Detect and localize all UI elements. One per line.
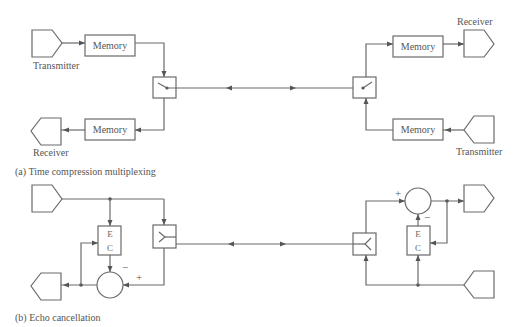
arrow-up-icon xyxy=(416,214,421,220)
left-memory-bottom-label: Memory xyxy=(93,124,127,135)
arrow-up-icon xyxy=(364,98,369,104)
arrow-right-icon xyxy=(92,241,98,246)
left-transmitter-pentagon-icon xyxy=(32,185,62,212)
right-memory-bottom: Memory xyxy=(393,119,443,140)
receiver-pentagon-icon xyxy=(464,30,494,57)
arrow-left-icon xyxy=(445,128,451,133)
ec-letter-e: E xyxy=(415,229,421,239)
arrow-right-icon xyxy=(399,199,405,204)
right-receiver: Receiver xyxy=(457,16,494,57)
arrow-right-icon xyxy=(387,42,393,47)
plus-sign: + xyxy=(395,187,401,199)
left-receiver-pentagon-icon xyxy=(31,273,61,300)
left-memory-top: Memory xyxy=(85,35,135,56)
right-switch xyxy=(353,77,376,98)
left-summing-junction xyxy=(97,272,123,298)
arrow-right-icon xyxy=(290,86,296,91)
arrow-down-icon xyxy=(162,219,167,225)
panel-a-time-compression: Transmitter Memory Memory Receiver xyxy=(15,16,503,178)
arrow-left-icon xyxy=(228,242,234,247)
right-memory-top: Memory xyxy=(393,36,443,57)
panel-b-echo-cancellation: E C − + xyxy=(15,185,494,324)
right-memory-top-label: Memory xyxy=(401,41,435,52)
plus-sign: + xyxy=(136,271,142,283)
arrow-left-icon xyxy=(63,283,69,288)
arrow-left-icon xyxy=(135,128,141,133)
left-echo-canceller: E C xyxy=(98,226,121,255)
caption-b: (b) Echo cancellation xyxy=(15,312,101,324)
arrow-left-icon xyxy=(226,86,232,91)
right-transmitter: Transmitter xyxy=(456,116,503,157)
ec-letter-e: E xyxy=(107,229,113,239)
left-receiver: Receiver xyxy=(31,118,69,158)
transmitter-pentagon-icon xyxy=(32,30,62,57)
minus-sign: − xyxy=(122,261,128,273)
left-memory-bottom: Memory xyxy=(85,119,135,140)
arrow-right-icon xyxy=(280,242,286,247)
arrow-up-icon xyxy=(364,255,369,261)
receiver-pentagon-icon xyxy=(31,118,61,145)
arrow-left-icon xyxy=(123,283,129,288)
arrow-left-icon xyxy=(430,241,436,246)
minus-sign: − xyxy=(424,211,430,223)
left-transmitter-label: Transmitter xyxy=(33,60,80,71)
right-transmitter-pentagon-icon xyxy=(464,271,494,298)
ec-letter-c: C xyxy=(107,243,113,253)
arrow-down-icon xyxy=(108,266,113,272)
ec-letter-c: C xyxy=(415,243,421,253)
arrow-down-icon xyxy=(108,220,113,226)
right-echo-canceller: E C xyxy=(407,226,430,255)
left-memory-top-label: Memory xyxy=(93,40,127,51)
arrow-right-icon xyxy=(79,41,85,46)
arrow-down-icon xyxy=(162,71,167,77)
right-receiver-pentagon-icon xyxy=(464,185,494,212)
left-hybrid xyxy=(153,225,176,248)
left-receiver-label: Receiver xyxy=(33,147,69,158)
arrow-right-icon xyxy=(458,199,464,204)
caption-a: (a) Time compression multiplexing xyxy=(15,166,156,178)
right-transmitter-label: Transmitter xyxy=(456,146,503,157)
left-transmitter: Transmitter xyxy=(32,30,80,71)
arrow-up-icon xyxy=(416,255,421,261)
arrow-left-icon xyxy=(63,128,69,133)
diagram-canvas: Transmitter Memory Memory Receiver xyxy=(0,0,521,327)
right-receiver-label: Receiver xyxy=(457,16,493,27)
right-memory-bottom-label: Memory xyxy=(401,124,435,135)
right-hybrid xyxy=(353,233,376,255)
arrow-right-icon xyxy=(458,42,464,47)
transmitter-pentagon-icon xyxy=(464,116,494,143)
